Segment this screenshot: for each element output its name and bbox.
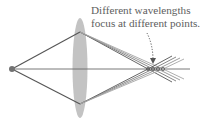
annotation-arrow xyxy=(147,33,153,60)
caption-line-2: focus at different points. xyxy=(91,17,205,30)
caption: Different wavelengths focus at different… xyxy=(91,4,205,29)
point-source xyxy=(9,66,15,72)
chromatic-aberration-diagram: Different wavelengths focus at different… xyxy=(0,0,206,122)
incoming-rays xyxy=(12,32,80,104)
outgoing-rays-top xyxy=(80,32,184,82)
caption-line-1: Different wavelengths xyxy=(91,4,205,17)
converging-lens xyxy=(73,18,88,118)
arrow-head-icon xyxy=(150,58,156,64)
